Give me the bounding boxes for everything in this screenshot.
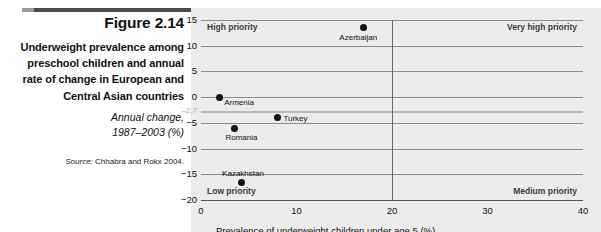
- y-tick-label: −20: [153, 194, 197, 205]
- x-tick-label: 40: [563, 205, 601, 216]
- data-point[interactable]: [216, 94, 223, 101]
- data-point-label: Armenia: [224, 98, 254, 107]
- quadrant-label-top-right: Very high priority: [507, 22, 577, 32]
- x-tick-label: 10: [277, 205, 317, 216]
- figure-source-text: Chhabra and Rokx 2004.: [93, 157, 184, 166]
- y-tick-label: 15: [153, 14, 197, 25]
- y-tick-label: −10: [153, 143, 197, 154]
- reference-line-x: [392, 20, 393, 200]
- data-point-label: Turkey: [283, 114, 307, 123]
- figure-panel: Figure 2.14 Underweight prevalence among…: [0, 0, 601, 232]
- data-point-label: Kazakhstan: [222, 169, 264, 178]
- data-point[interactable]: [231, 125, 238, 132]
- data-point-label: Azerbaijan: [339, 33, 377, 42]
- y-tick-label: −15: [153, 168, 197, 179]
- x-axis-line: [201, 200, 583, 201]
- data-point-label: Romania: [225, 133, 257, 142]
- scatter-chart: High priorityVery high priorityLow prior…: [191, 8, 601, 232]
- y-tick-label: −5: [153, 117, 197, 128]
- top-rule-cap: [22, 8, 34, 12]
- quadrant-label-bottom-left: Low priority: [207, 186, 256, 196]
- figure-source: Source: Chhabra and Rokx 2004.: [14, 156, 184, 168]
- y-tick-label: 0: [153, 91, 197, 102]
- figure-source-label: Source:: [65, 157, 93, 166]
- y-reference-label: –2.7: [153, 106, 197, 115]
- x-tick-label: 30: [468, 205, 508, 216]
- quadrant-label-bottom-right: Medium priority: [513, 186, 577, 196]
- x-tick-label: 20: [372, 205, 412, 216]
- x-axis-title: Prevalence of underweight children under…: [216, 225, 435, 232]
- y-tick-label: 5: [153, 65, 197, 76]
- plot-area: High priorityVery high priorityLow prior…: [201, 20, 583, 200]
- data-point[interactable]: [238, 179, 245, 186]
- quadrant-label-top-left: High priority: [207, 22, 258, 32]
- data-point[interactable]: [360, 24, 367, 31]
- x-tick-label: 0: [181, 205, 221, 216]
- y-tick-label: 10: [153, 40, 197, 51]
- data-point[interactable]: [274, 114, 281, 121]
